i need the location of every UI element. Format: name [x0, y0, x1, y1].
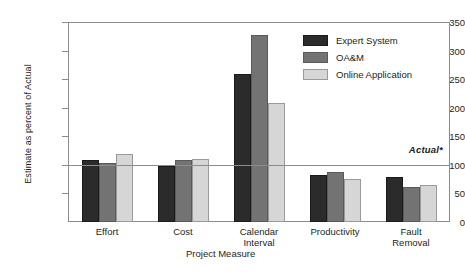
y-axis-title: Estimate as percent of Actual — [23, 24, 33, 224]
legend-swatch-icon — [303, 52, 328, 63]
bar-group — [158, 22, 209, 222]
bar — [192, 159, 209, 222]
x-axis-tick-label-line: Productivity — [297, 226, 373, 237]
x-axis-tick-label-line: Calendar — [221, 226, 297, 237]
x-axis-tick-label-line: Removal — [373, 237, 449, 248]
bar — [158, 166, 175, 222]
bar — [310, 175, 327, 222]
legend-swatch-icon — [303, 69, 328, 80]
x-axis-tick-label: Cost — [145, 226, 221, 237]
bar-group — [82, 22, 133, 222]
legend-item: Expert System — [303, 33, 443, 48]
x-axis-tick-label: Productivity — [297, 226, 373, 237]
bar — [82, 160, 99, 222]
legend-item: OA&M — [303, 50, 443, 65]
bar — [251, 35, 268, 222]
legend-label: OA&M — [336, 52, 364, 63]
legend-swatch-icon — [303, 35, 328, 46]
actual-reference-line — [69, 165, 449, 166]
bar — [327, 172, 344, 222]
bar — [234, 74, 251, 222]
bar — [99, 163, 116, 222]
x-axis-title: Project Measure — [186, 248, 255, 259]
bar-group — [234, 22, 285, 222]
bar — [175, 160, 192, 222]
legend-label: Online Application — [336, 69, 412, 80]
x-axis-tick-label: Effort — [69, 226, 145, 237]
x-axis-tick-label: FaultRemoval — [373, 226, 449, 248]
legend-item: Online Application — [303, 67, 443, 82]
x-axis-tick-label: CalendarInterval — [221, 226, 297, 248]
bar — [420, 185, 437, 222]
x-axis-tick-label-line: Cost — [145, 226, 221, 237]
x-axis-tick-label-line: Fault — [373, 226, 449, 237]
x-axis-tick-label-line: Effort — [69, 226, 145, 237]
legend-label: Expert System — [336, 35, 398, 46]
chart-legend: Expert SystemOA&MOnline Application — [303, 33, 443, 84]
bar — [403, 187, 420, 222]
x-axis-tick-label-line: Interval — [221, 237, 297, 248]
bar — [386, 177, 403, 222]
bar-chart-figure: Estimate as percent of Actual 0501001502… — [0, 0, 465, 279]
bar — [268, 103, 285, 222]
actual-reference-label: Actual* — [409, 144, 443, 155]
bar — [344, 179, 361, 222]
